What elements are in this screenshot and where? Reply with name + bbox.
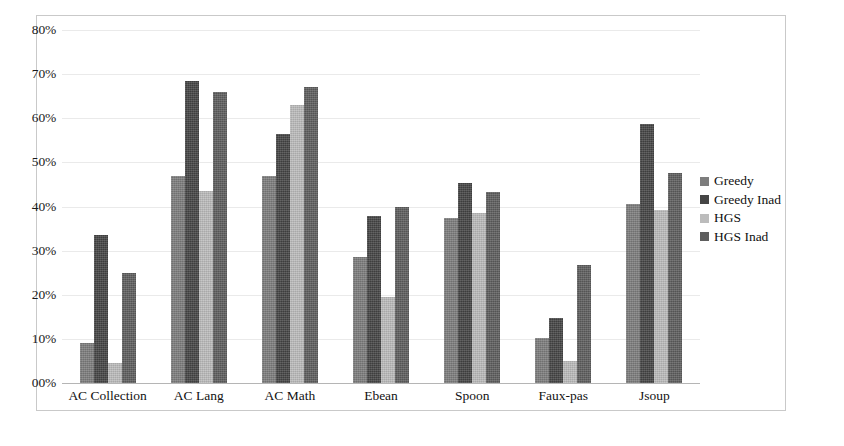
legend-item[interactable]: Greedy [700, 172, 832, 191]
y-tick-label: 00% [10, 375, 56, 391]
y-tick-label: 60% [10, 110, 56, 126]
legend-item[interactable]: HGS Inad [700, 228, 832, 247]
chart-legend: GreedyGreedy InadHGSHGS Inad [700, 172, 832, 246]
y-axis-ticks: 00%10%20%30%40%50%60%70%80% [8, 30, 56, 383]
bar-group [171, 30, 227, 383]
bar [185, 81, 199, 383]
bar [367, 216, 381, 383]
legend-swatch-icon [700, 177, 709, 186]
bar [171, 176, 185, 383]
legend-item[interactable]: Greedy Inad [700, 191, 832, 210]
y-tick-label: 20% [10, 287, 56, 303]
legend-swatch-icon [700, 232, 709, 241]
bar-chart: 00%10%20%30%40%50%60%70%80% AC Collectio… [0, 0, 844, 446]
x-tick-label: Spoon [455, 388, 490, 404]
bar [654, 210, 668, 383]
bar [199, 191, 213, 383]
bar [472, 213, 486, 383]
bar-group [353, 30, 409, 383]
legend-label: Greedy Inad [714, 192, 781, 208]
bar-groups [62, 30, 700, 383]
bar [353, 257, 367, 383]
bar-group [444, 30, 500, 383]
bar [94, 235, 108, 383]
bar [80, 343, 94, 383]
x-tick-label: Ebean [364, 388, 398, 404]
bar [108, 363, 122, 383]
legend-swatch-icon [700, 195, 709, 204]
bar [304, 87, 318, 383]
bar [122, 273, 136, 383]
bar [626, 204, 640, 383]
y-tick-label: 70% [10, 66, 56, 82]
bar [577, 265, 591, 383]
y-tick-label: 10% [10, 331, 56, 347]
x-tick-label: AC Lang [174, 388, 224, 404]
bar-group [262, 30, 318, 383]
bar [444, 218, 458, 383]
y-tick-label: 40% [10, 199, 56, 215]
axis-baseline [62, 383, 700, 384]
bar [276, 134, 290, 383]
x-tick-label: AC Math [265, 388, 316, 404]
legend-label: HGS Inad [714, 229, 768, 245]
bar [262, 176, 276, 383]
x-tick-label: Jsoup [639, 388, 670, 404]
bar [381, 297, 395, 383]
bar-group [626, 30, 682, 383]
bar [395, 207, 409, 384]
bar [290, 105, 304, 383]
y-tick-label: 80% [10, 22, 56, 38]
bar [486, 192, 500, 383]
legend-item[interactable]: HGS [700, 209, 832, 228]
bar [563, 361, 577, 383]
bar [535, 338, 549, 383]
bar-group [80, 30, 136, 383]
legend-label: Greedy [714, 173, 754, 189]
x-tick-label: AC Collection [68, 388, 146, 404]
y-tick-label: 30% [10, 243, 56, 259]
bar [213, 92, 227, 383]
bar [549, 318, 563, 383]
bar [668, 173, 682, 383]
bar [640, 124, 654, 383]
bar [458, 183, 472, 383]
legend-label: HGS [714, 210, 741, 226]
x-tick-label: Faux-pas [539, 388, 589, 404]
bar-group [535, 30, 591, 383]
y-tick-label: 50% [10, 154, 56, 170]
legend-swatch-icon [700, 214, 709, 223]
